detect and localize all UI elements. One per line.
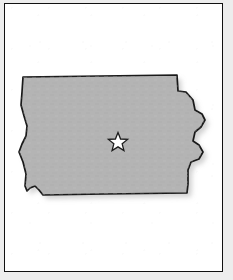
map-frame-border [4, 3, 223, 272]
figure-page [0, 0, 233, 280]
state-map-canvas [5, 4, 224, 273]
